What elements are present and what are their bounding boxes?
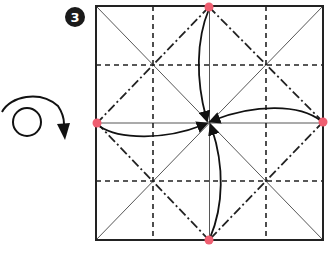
- existing-creases: [96, 6, 323, 240]
- point-left-mid: [93, 119, 102, 128]
- point-bottom-mid: [205, 236, 214, 245]
- arrow-top-to-center: [199, 9, 209, 117]
- origami-diagram: 3: [0, 0, 329, 258]
- arrow-left-to-center: [99, 125, 203, 136]
- point-right-mid: [319, 118, 328, 127]
- arrow-bottom-to-center: [210, 129, 221, 238]
- step-number-badge: 3: [65, 7, 85, 27]
- step-number: 3: [70, 10, 79, 25]
- point-top-mid: [205, 3, 214, 12]
- arrow-right-to-center: [214, 108, 321, 121]
- paper-square: [93, 3, 328, 245]
- turn-over-icon: [2, 97, 70, 140]
